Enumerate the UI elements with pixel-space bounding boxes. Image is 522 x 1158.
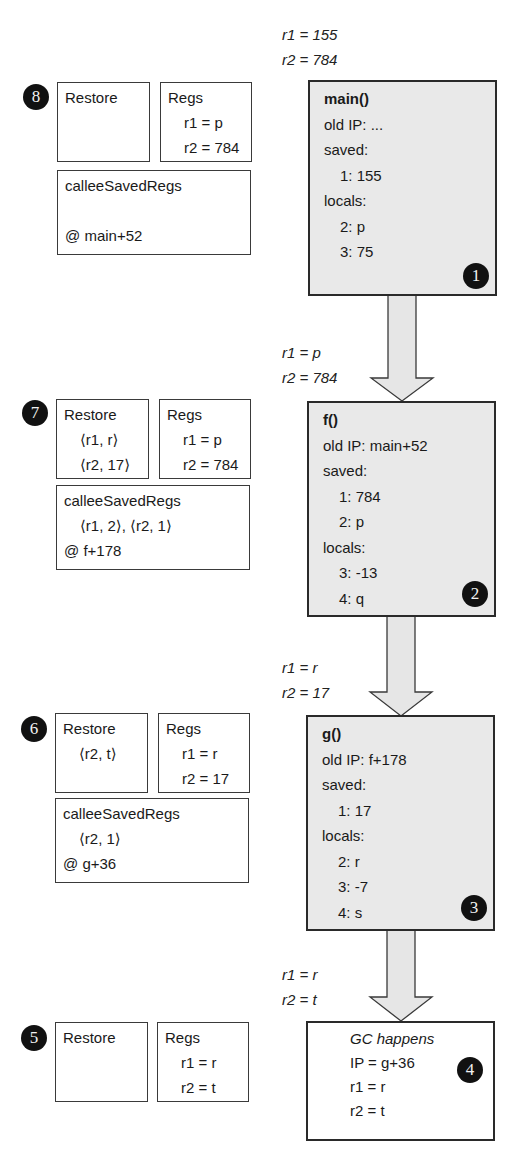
frame-title: g() bbox=[322, 721, 493, 747]
restore-entry: ⟨r1, r⟩ bbox=[64, 427, 148, 452]
gc-event-box: GC happens IP = g+36 r1 = r r2 = t 4 bbox=[306, 1021, 495, 1141]
restore-box: Restore ⟨r1, r⟩ ⟨r2, 17⟩ bbox=[56, 399, 149, 479]
reg-label-r2: r2 = 784 bbox=[282, 365, 337, 390]
callee-at: @ f+178 bbox=[64, 538, 249, 563]
reg-value: r2 = 784 bbox=[167, 452, 250, 477]
callee-saved-regs-box: calleeSavedRegs ⟨r2, 1⟩ @ g+36 bbox=[55, 798, 249, 883]
reg-label-r1: r1 = 155 bbox=[282, 22, 337, 47]
reg-value: r1 = r bbox=[166, 741, 249, 766]
step-badge: 5 bbox=[21, 1025, 47, 1051]
down-arrow-icon bbox=[368, 616, 438, 718]
callee-label: calleeSavedRegs bbox=[65, 173, 250, 198]
incoming-regs-f: r1 = p r2 = 784 bbox=[282, 340, 337, 390]
regs-label: Regs bbox=[168, 85, 251, 110]
regs-box: Regs r1 = p r2 = 784 bbox=[159, 399, 251, 479]
regs-label: Regs bbox=[167, 402, 250, 427]
callee-at: @ main+52 bbox=[65, 223, 250, 248]
reg-label-r2: r2 = t bbox=[282, 987, 317, 1012]
step-badge: 4 bbox=[457, 1057, 483, 1083]
restore-entry: ⟨r2, t⟩ bbox=[63, 741, 147, 766]
reg-value: r1 = p bbox=[168, 110, 251, 135]
reg-value: r2 = 784 bbox=[168, 135, 251, 160]
incoming-regs-gc: r1 = r r2 = t bbox=[282, 962, 317, 1012]
reg-label-r2: r2 = 784 bbox=[282, 47, 337, 72]
reg-value: r1 = p bbox=[167, 427, 250, 452]
reg-label-r1: r1 = r bbox=[282, 655, 329, 680]
frame-old-ip: old IP: f+178 bbox=[322, 747, 493, 773]
frame-locals-label: locals: bbox=[322, 823, 493, 849]
reg-value: r1 = r bbox=[165, 1050, 248, 1075]
step-badge: 1 bbox=[463, 263, 489, 289]
callee-value: ⟨r1, 2⟩, ⟨r2, 1⟩ bbox=[64, 513, 249, 538]
callee-value bbox=[65, 198, 250, 223]
down-arrow-icon bbox=[369, 295, 439, 403]
callee-value: ⟨r2, 1⟩ bbox=[63, 826, 248, 851]
frame-local-slot: 2: p bbox=[324, 214, 495, 240]
gc-r2: r2 = t bbox=[308, 1099, 493, 1123]
restore-box: Restore bbox=[57, 82, 150, 162]
restore-entry: ⟨r2, 17⟩ bbox=[64, 452, 148, 477]
restore-box: Restore ⟨r2, t⟩ bbox=[55, 713, 148, 793]
incoming-regs-main: r1 = 155 r2 = 784 bbox=[282, 22, 337, 72]
frame-saved-slot: 1: 784 bbox=[323, 484, 494, 510]
stack-frame-g: g() old IP: f+178 saved: 1: 17 locals: 2… bbox=[306, 715, 495, 931]
reg-label-r1: r1 = p bbox=[282, 340, 337, 365]
frame-title: f() bbox=[323, 407, 494, 433]
frame-locals-label: locals: bbox=[323, 535, 494, 561]
restore-label: Restore bbox=[63, 716, 147, 741]
frame-saved-slot: 1: 155 bbox=[324, 163, 495, 189]
regs-box: Regs r1 = p r2 = 784 bbox=[160, 82, 252, 162]
down-arrow-icon bbox=[368, 929, 438, 1023]
frame-saved-label: saved: bbox=[322, 772, 493, 798]
callee-saved-regs-box: calleeSavedRegs @ main+52 bbox=[57, 170, 251, 255]
callee-saved-regs-box: calleeSavedRegs ⟨r1, 2⟩, ⟨r2, 1⟩ @ f+178 bbox=[56, 485, 250, 570]
frame-saved-slot: 2: p bbox=[323, 509, 494, 535]
gc-title: GC happens bbox=[308, 1027, 493, 1051]
step-badge: 6 bbox=[21, 716, 47, 742]
step-badge: 7 bbox=[22, 400, 48, 426]
regs-box: Regs r1 = r r2 = 17 bbox=[158, 713, 250, 793]
regs-label: Regs bbox=[166, 716, 249, 741]
restore-box: Restore bbox=[55, 1022, 148, 1102]
regs-label: Regs bbox=[165, 1025, 248, 1050]
step-badge: 8 bbox=[23, 84, 49, 110]
callee-label: calleeSavedRegs bbox=[63, 801, 248, 826]
regs-box: Regs r1 = r r2 = t bbox=[157, 1022, 249, 1102]
restore-label: Restore bbox=[64, 402, 148, 427]
step-badge: 2 bbox=[462, 581, 488, 607]
frame-old-ip: old IP: main+52 bbox=[323, 433, 494, 459]
restore-label: Restore bbox=[63, 1025, 147, 1050]
step-badge: 3 bbox=[461, 895, 487, 921]
frame-saved-label: saved: bbox=[324, 137, 495, 163]
callee-at: @ g+36 bbox=[63, 851, 248, 876]
reg-value: r2 = t bbox=[165, 1075, 248, 1100]
frame-local-slot: 3: 75 bbox=[324, 239, 495, 265]
stack-frame-main: main() old IP: ... saved: 1: 155 locals:… bbox=[308, 80, 497, 296]
reg-label-r2: r2 = 17 bbox=[282, 680, 329, 705]
frame-title: main() bbox=[324, 86, 495, 112]
frame-saved-slot: 1: 17 bbox=[322, 798, 493, 824]
stack-frame-f: f() old IP: main+52 saved: 1: 784 2: p l… bbox=[307, 401, 496, 617]
frame-saved-label: saved: bbox=[323, 458, 494, 484]
reg-value: r2 = 17 bbox=[166, 766, 249, 791]
frame-old-ip: old IP: ... bbox=[324, 112, 495, 138]
frame-locals-label: locals: bbox=[324, 188, 495, 214]
frame-local-slot: 2: r bbox=[322, 849, 493, 875]
reg-label-r1: r1 = r bbox=[282, 962, 317, 987]
restore-label: Restore bbox=[65, 85, 149, 110]
callee-label: calleeSavedRegs bbox=[64, 488, 249, 513]
incoming-regs-g: r1 = r r2 = 17 bbox=[282, 655, 329, 705]
